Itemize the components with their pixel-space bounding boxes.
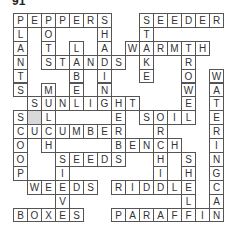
- grid-cell[interactable]: V: [55, 194, 70, 209]
- grid-cell[interactable]: D: [69, 180, 84, 195]
- grid-cell[interactable]: W: [181, 83, 196, 98]
- grid-cell[interactable]: T: [125, 96, 140, 111]
- grid-cell[interactable]: G: [209, 166, 224, 181]
- grid-cell[interactable]: L: [69, 96, 84, 111]
- grid-cell[interactable]: A: [209, 194, 224, 209]
- grid-cell[interactable]: N: [55, 96, 70, 111]
- grid-cell[interactable]: E: [195, 13, 210, 28]
- grid-cell[interactable]: K: [139, 55, 154, 70]
- grid-cell[interactable]: A: [69, 55, 84, 70]
- grid-cell[interactable]: R: [181, 55, 196, 70]
- grid-cell[interactable]: O: [13, 138, 28, 153]
- grid-cell[interactable]: O: [27, 208, 42, 223]
- grid-cell[interactable]: E: [181, 96, 196, 111]
- grid-cell[interactable]: B: [111, 138, 126, 153]
- grid-cell[interactable]: U: [27, 124, 42, 139]
- grid-cell[interactable]: H: [97, 27, 112, 42]
- grid-cell[interactable]: N: [83, 55, 98, 70]
- grid-cell[interactable]: F: [181, 208, 196, 223]
- grid-cell[interactable]: I: [125, 180, 140, 195]
- grid-cell[interactable]: S: [111, 152, 126, 167]
- grid-cell[interactable]: I: [55, 166, 70, 181]
- grid-cell[interactable]: A: [139, 41, 154, 56]
- grid-cell[interactable]: S: [41, 55, 56, 70]
- grid-cell[interactable]: T: [209, 96, 224, 111]
- grid-cell[interactable]: T: [55, 55, 70, 70]
- grid-cell[interactable]: C: [41, 124, 56, 139]
- grid-cell[interactable]: U: [41, 96, 56, 111]
- grid-cell[interactable]: F: [167, 208, 182, 223]
- grid-cell[interactable]: W: [209, 69, 224, 84]
- grid-cell[interactable]: R: [153, 124, 168, 139]
- grid-cell[interactable]: I: [195, 208, 210, 223]
- grid-cell[interactable]: S: [83, 180, 98, 195]
- grid-cell[interactable]: H: [167, 138, 182, 153]
- grid-cell[interactable]: W: [125, 41, 140, 56]
- shaded-cell[interactable]: [27, 110, 42, 125]
- grid-cell[interactable]: L: [181, 110, 196, 125]
- grid-cell[interactable]: G: [97, 96, 112, 111]
- grid-cell[interactable]: H: [195, 41, 210, 56]
- grid-cell[interactable]: E: [209, 110, 224, 125]
- grid-cell[interactable]: E: [167, 13, 182, 28]
- grid-cell[interactable]: E: [69, 13, 84, 28]
- grid-cell[interactable]: T: [13, 69, 28, 84]
- grid-cell[interactable]: P: [13, 13, 28, 28]
- grid-cell[interactable]: C: [153, 138, 168, 153]
- grid-cell[interactable]: E: [153, 13, 168, 28]
- grid-cell[interactable]: N: [209, 152, 224, 167]
- grid-cell[interactable]: T: [181, 41, 196, 56]
- grid-cell[interactable]: L: [13, 27, 28, 42]
- grid-cell[interactable]: D: [139, 180, 154, 195]
- grid-cell[interactable]: E: [97, 124, 112, 139]
- grid-cell[interactable]: W: [27, 180, 42, 195]
- grid-cell[interactable]: R: [139, 208, 154, 223]
- grid-cell[interactable]: S: [97, 13, 112, 28]
- grid-cell[interactable]: E: [27, 13, 42, 28]
- grid-cell[interactable]: N: [139, 138, 154, 153]
- grid-cell[interactable]: A: [13, 41, 28, 56]
- grid-cell[interactable]: X: [41, 208, 56, 223]
- grid-cell[interactable]: S: [69, 208, 84, 223]
- grid-cell[interactable]: R: [209, 13, 224, 28]
- grid-cell[interactable]: E: [69, 152, 84, 167]
- grid-cell[interactable]: R: [111, 124, 126, 139]
- grid-cell[interactable]: N: [13, 55, 28, 70]
- grid-cell[interactable]: T: [139, 27, 154, 42]
- grid-cell[interactable]: B: [13, 208, 28, 223]
- grid-cell[interactable]: D: [97, 152, 112, 167]
- grid-cell[interactable]: R: [83, 13, 98, 28]
- grid-cell[interactable]: R: [153, 41, 168, 56]
- grid-cell[interactable]: S: [13, 83, 28, 98]
- grid-cell[interactable]: M: [41, 83, 56, 98]
- grid-cell[interactable]: O: [41, 27, 56, 42]
- grid-cell[interactable]: A: [209, 83, 224, 98]
- grid-cell[interactable]: M: [69, 124, 84, 139]
- grid-cell[interactable]: E: [125, 138, 140, 153]
- grid-cell[interactable]: H: [111, 96, 126, 111]
- grid-cell[interactable]: E: [41, 180, 56, 195]
- grid-cell[interactable]: S: [181, 152, 196, 167]
- grid-cell[interactable]: I: [209, 138, 224, 153]
- grid-cell[interactable]: D: [97, 55, 112, 70]
- grid-cell[interactable]: I: [153, 166, 168, 181]
- grid-cell[interactable]: I: [167, 110, 182, 125]
- grid-cell[interactable]: B: [83, 124, 98, 139]
- grid-cell[interactable]: R: [209, 124, 224, 139]
- grid-cell[interactable]: P: [41, 13, 56, 28]
- grid-cell[interactable]: S: [139, 13, 154, 28]
- grid-cell[interactable]: P: [55, 13, 70, 28]
- grid-cell[interactable]: S: [27, 96, 42, 111]
- grid-cell[interactable]: A: [125, 208, 140, 223]
- grid-cell[interactable]: A: [153, 208, 168, 223]
- grid-cell[interactable]: H: [181, 166, 196, 181]
- grid-cell[interactable]: E: [55, 208, 70, 223]
- grid-cell[interactable]: L: [41, 110, 56, 125]
- grid-cell[interactable]: M: [167, 41, 182, 56]
- grid-cell[interactable]: R: [111, 180, 126, 195]
- grid-cell[interactable]: E: [139, 69, 154, 84]
- grid-cell[interactable]: C: [13, 124, 28, 139]
- grid-cell[interactable]: P: [111, 208, 126, 223]
- grid-cell[interactable]: U: [55, 124, 70, 139]
- grid-cell[interactable]: L: [167, 180, 182, 195]
